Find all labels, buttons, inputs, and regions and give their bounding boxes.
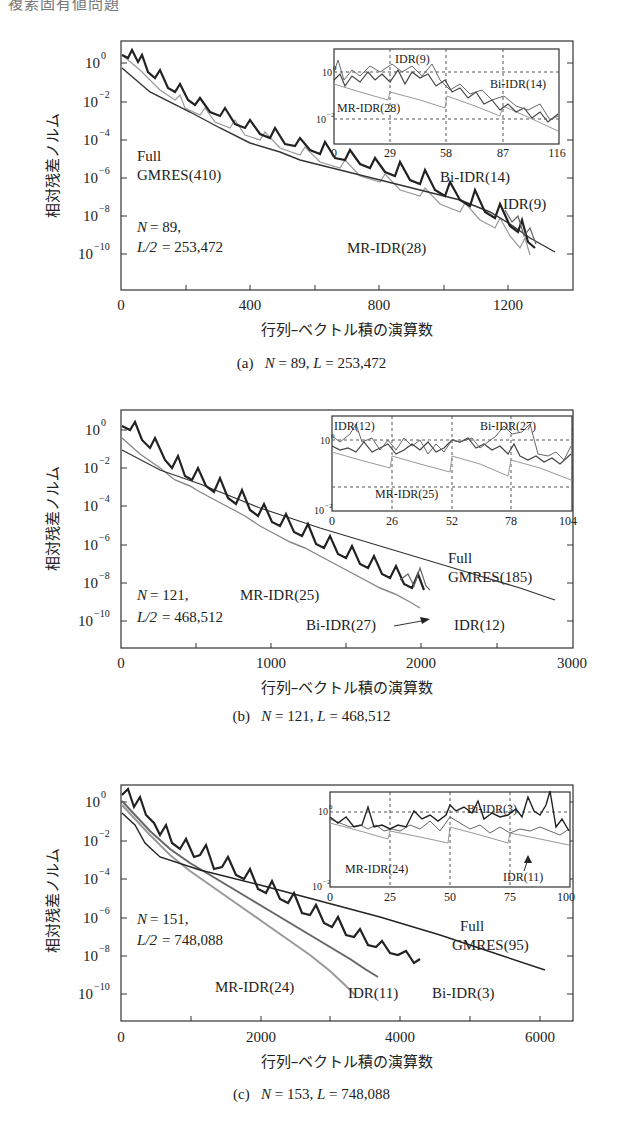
svg-text:N: N <box>136 219 148 235</box>
svg-text:MR-IDR(28): MR-IDR(28) <box>347 240 426 257</box>
svg-text:52: 52 <box>446 514 458 528</box>
svg-text:L/2: L/2 <box>136 932 158 948</box>
svg-text:4000: 4000 <box>385 1029 415 1045</box>
svg-text:3000: 3000 <box>557 655 587 671</box>
svg-text:L/2: L/2 <box>136 609 158 625</box>
svg-text:−4: −4 <box>99 866 110 877</box>
svg-text:10: 10 <box>314 505 324 516</box>
caption-b: (b) N = 121, L = 468,512 <box>0 708 623 725</box>
chart-c: 相対残差ノルム 100 10−2 10−4 10−6 10−8 10−10 0 … <box>0 745 623 1138</box>
svg-text:N: N <box>136 587 148 603</box>
svg-text:IDR(9): IDR(9) <box>503 196 546 213</box>
svg-text:−8: −8 <box>99 570 110 581</box>
svg-text:0: 0 <box>331 432 335 440</box>
svg-text:MR-IDR(24): MR-IDR(24) <box>345 862 408 876</box>
svg-text:100: 100 <box>557 890 575 904</box>
chart-b: 相対残差ノルム 100 10−2 10−4 10−6 10−8 10−10 0 … <box>0 368 623 748</box>
chart-a: 相対残差ノルム 100 10−2 10−4 10−6 10−8 10−10 0 … <box>0 0 623 380</box>
arrow-head-icon <box>420 617 430 624</box>
svg-text:−2: −2 <box>99 455 110 466</box>
svg-text:10: 10 <box>83 948 98 964</box>
svg-text:−2: −2 <box>327 111 335 119</box>
svg-text:= 121,: = 121, <box>150 587 188 603</box>
figure-panel-c: 相対残差ノルム 100 10−2 10−4 10−6 10−8 10−10 0 … <box>0 745 623 1138</box>
svg-text:10: 10 <box>83 132 98 148</box>
svg-text:−10: −10 <box>94 981 110 992</box>
svg-text:Bi-IDR(3): Bi-IDR(3) <box>432 985 495 1002</box>
svg-text:−2: −2 <box>323 878 331 886</box>
svg-text:10: 10 <box>83 871 98 887</box>
svg-text:GMRES(185): GMRES(185) <box>448 569 532 586</box>
svg-text:10: 10 <box>78 613 93 629</box>
x-axis-label: 行列–ベクトル積の演算数 <box>261 321 434 339</box>
svg-text:N: N <box>136 911 148 927</box>
svg-text:GMRES(95): GMRES(95) <box>452 937 529 954</box>
y-axis-label: 相対残差ノルム <box>44 848 62 953</box>
svg-text:10: 10 <box>83 537 98 553</box>
annotations: Full GMRES(185) N= 121, L/2= 468,512 MR-… <box>136 550 532 634</box>
caption-c: (c) N = 153, L = 748,088 <box>0 1086 623 1103</box>
figure-panel-b: 相対残差ノルム 100 10−2 10−4 10−6 10−8 10−10 0 … <box>0 368 623 748</box>
x-axis-ticks: 0 2000 4000 6000 <box>117 1016 555 1045</box>
svg-text:2000: 2000 <box>246 1029 276 1045</box>
svg-text:2000: 2000 <box>406 655 436 671</box>
svg-text:10: 10 <box>83 498 98 514</box>
svg-text:0: 0 <box>101 789 106 800</box>
svg-text:0: 0 <box>329 514 335 528</box>
x-axis-ticks: 0 1000 2000 3000 <box>117 643 587 671</box>
svg-text:10: 10 <box>85 422 100 438</box>
svg-text:Bi-IDR(14): Bi-IDR(14) <box>490 77 546 91</box>
x-axis-label: 行列–ベクトル積の演算数 <box>261 1053 434 1071</box>
svg-text:−10: −10 <box>94 241 110 252</box>
inset-chart-b: 100 10−2 0 26 52 78 104 IDR(12) Bi-IDR(2… <box>314 416 577 528</box>
svg-text:10: 10 <box>322 67 332 78</box>
svg-text:104: 104 <box>559 514 577 528</box>
svg-text:−2: −2 <box>325 502 333 510</box>
svg-text:0: 0 <box>329 803 333 811</box>
x-tick-label: 400 <box>239 297 262 313</box>
y-axis-label: 相対残差ノルム <box>44 113 62 218</box>
svg-text:−2: −2 <box>99 828 110 839</box>
svg-text:Full: Full <box>448 550 472 566</box>
x-axis-label: 行列–ベクトル積の演算数 <box>261 679 434 697</box>
svg-text:0: 0 <box>331 146 337 160</box>
svg-text:MR-IDR(24): MR-IDR(24) <box>215 979 294 996</box>
svg-text:= 89,: = 89, <box>150 219 181 235</box>
svg-text:6000: 6000 <box>525 1029 555 1045</box>
svg-text:0: 0 <box>101 50 106 61</box>
svg-text:GMRES(410): GMRES(410) <box>137 167 221 184</box>
x-tick-label: 1200 <box>493 297 523 313</box>
svg-text:10: 10 <box>85 794 100 810</box>
svg-text:Full: Full <box>460 918 484 934</box>
svg-text:−6: −6 <box>99 532 110 543</box>
svg-text:= 151,: = 151, <box>150 911 188 927</box>
svg-text:Bi-IDR(14): Bi-IDR(14) <box>440 169 510 186</box>
x-axis-ticks: 0 400 800 1200 <box>117 285 523 313</box>
svg-text:0: 0 <box>101 417 106 428</box>
svg-text:10: 10 <box>83 833 98 849</box>
x-tick-label: 0 <box>117 297 125 313</box>
svg-text:−4: −4 <box>99 127 110 138</box>
svg-text:10: 10 <box>320 435 330 446</box>
annotations: Full GMRES(410) N= 89, L/2= 253,472 Bi-I… <box>136 148 546 257</box>
svg-text:Bi-IDR(27): Bi-IDR(27) <box>480 419 536 433</box>
svg-text:IDR(11): IDR(11) <box>503 870 543 884</box>
inset-chart-c: 100 10−2 0 25 50 75 100 Bi-IDR(3) MR-IDR… <box>312 791 575 904</box>
svg-text:10: 10 <box>83 910 98 926</box>
svg-text:Full: Full <box>137 148 161 164</box>
svg-text:10: 10 <box>312 881 322 892</box>
svg-text:50: 50 <box>444 890 456 904</box>
svg-text:MR-IDR(28): MR-IDR(28) <box>337 101 400 115</box>
svg-text:10: 10 <box>83 94 98 110</box>
svg-text:10: 10 <box>83 170 98 186</box>
svg-text:58: 58 <box>440 146 452 160</box>
svg-text:L/2: L/2 <box>136 239 158 255</box>
svg-text:25: 25 <box>384 890 396 904</box>
svg-text:10: 10 <box>316 114 326 125</box>
svg-text:87: 87 <box>497 146 509 160</box>
svg-text:= 468,512: = 468,512 <box>162 609 223 625</box>
svg-text:10: 10 <box>83 208 98 224</box>
svg-text:10: 10 <box>318 806 328 817</box>
svg-text:MR-IDR(25): MR-IDR(25) <box>375 487 438 501</box>
svg-text:1000: 1000 <box>256 655 286 671</box>
